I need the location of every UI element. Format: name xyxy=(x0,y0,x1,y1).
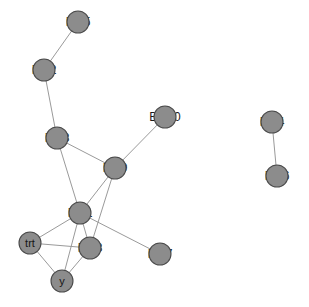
graph-node[interactable]: BM3 xyxy=(78,237,103,259)
graph-node[interactable]: BM7 xyxy=(148,243,173,265)
node-label: trt xyxy=(25,237,35,249)
node-circle[interactable] xyxy=(154,106,176,128)
node-circle[interactable] xyxy=(46,127,68,149)
node-circle[interactable] xyxy=(261,111,283,133)
node-circle[interactable] xyxy=(69,202,91,224)
graph-node[interactable]: BM5 xyxy=(66,11,91,33)
network-graph-canvas: BM5BM2BM8BM10BM9BM1trtBM3yBM7BM4BM6 xyxy=(0,0,309,307)
node-circle[interactable] xyxy=(79,237,101,259)
graph-node[interactable]: BM8 xyxy=(45,127,70,149)
node-circle[interactable] xyxy=(67,11,89,33)
graph-edge xyxy=(57,138,80,213)
node-layer: BM5BM2BM8BM10BM9BM1trtBM3yBM7BM4BM6 xyxy=(19,11,290,292)
node-circle[interactable] xyxy=(266,165,288,187)
graph-node[interactable]: trt xyxy=(19,232,41,254)
node-circle[interactable] xyxy=(33,59,55,81)
graph-node[interactable]: BM1 xyxy=(68,202,93,224)
graph-node[interactable]: BM9 xyxy=(103,157,128,179)
network-graph-svg: BM5BM2BM8BM10BM9BM1trtBM3yBM7BM4BM6 xyxy=(0,0,309,307)
node-circle[interactable] xyxy=(149,243,171,265)
edge-layer xyxy=(30,22,277,281)
node-circle[interactable] xyxy=(104,157,126,179)
graph-node[interactable]: BM2 xyxy=(32,59,57,81)
graph-node[interactable]: BM4 xyxy=(260,111,285,133)
graph-node[interactable]: BM10 xyxy=(149,106,181,128)
graph-node[interactable]: y xyxy=(51,270,73,292)
node-label: y xyxy=(59,275,65,287)
graph-node[interactable]: BM6 xyxy=(265,165,290,187)
graph-edge xyxy=(90,168,115,248)
